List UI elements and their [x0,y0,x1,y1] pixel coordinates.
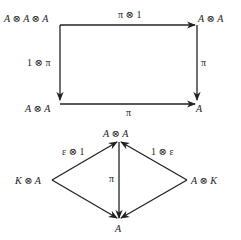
node-right: A ⊗ K [190,175,218,186]
edge-right-to-bottom [121,180,187,218]
node-bottom-right: A [195,103,203,114]
edge-label-top-to-bottom: π [109,173,114,184]
associativity-square: A ⊗ A ⊗ A A ⊗ A A ⊗ A A π ⊗ 1 1 ⊗ π π π [3,9,224,118]
node-top: A ⊗ A [102,128,129,139]
diagram-canvas: A ⊗ A ⊗ A A ⊗ A A ⊗ A A π ⊗ 1 1 ⊗ π π π … [0,0,241,240]
edge-label-bottom: π [126,107,131,118]
edge-label-left-to-top: ε ⊗ 1 [62,146,85,157]
node-top-left: A ⊗ A ⊗ A [3,13,49,24]
edge-label-left: 1 ⊗ π [27,57,50,68]
edge-left-to-bottom [52,180,117,218]
edge-label-right-to-top: 1 ⊗ ε [151,146,174,157]
node-top-right: A ⊗ A [197,13,224,24]
node-bottom: A [114,223,122,234]
edge-label-right: π [201,57,206,68]
unit-diamond: A ⊗ A K ⊗ A A ⊗ K A ε ⊗ 1 1 ⊗ ε π [14,128,218,234]
edge-label-top: π ⊗ 1 [118,9,141,20]
node-bottom-left: A ⊗ A [24,103,51,114]
node-left: K ⊗ A [14,175,42,186]
